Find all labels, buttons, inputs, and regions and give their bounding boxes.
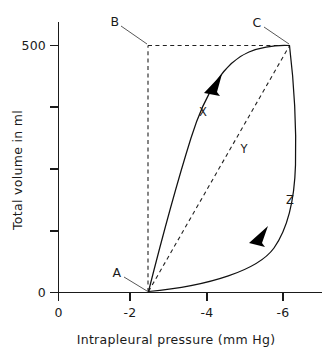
y-axis-title: Total volume in ml (10, 110, 25, 231)
point-labels-group: A B C (111, 14, 262, 280)
pressure-volume-loop-plot: 500 0 0 -2 -4 -6 Intrapleural pressure (… (0, 0, 329, 350)
axes-group (59, 22, 323, 293)
point-label-b: B (111, 14, 120, 29)
x-tick-marks (59, 293, 284, 301)
segment-label-z: Z (286, 193, 294, 207)
y-tick-label-0: 0 (38, 285, 46, 300)
y-tick-marks (50, 46, 58, 293)
point-label-a: A (113, 265, 122, 280)
segment-label-y: Y (239, 142, 248, 156)
leader-line-a (124, 277, 147, 291)
segment-labels-group: X Y Z (199, 105, 294, 207)
expiration-curve-z (149, 46, 296, 292)
x-tick-label-minus2: -2 (124, 305, 137, 320)
x-tick-labels: 0 -2 -4 -6 (54, 305, 289, 320)
leader-lines-group (121, 26, 289, 291)
leader-line-b (121, 26, 147, 44)
y-tick-labels: 500 0 (22, 38, 46, 300)
x-tick-label-0: 0 (54, 305, 62, 320)
leader-line-c (264, 27, 289, 44)
x-tick-label-minus6: -6 (277, 305, 290, 320)
expiration-direction-arrow-icon (249, 226, 268, 247)
y-tick-label-500: 500 (22, 38, 46, 53)
segment-label-x: X (199, 105, 207, 119)
x-tick-label-minus4: -4 (201, 305, 214, 320)
hysteresis-chart-figure: 500 0 0 -2 -4 -6 Intrapleural pressure (… (0, 0, 329, 350)
inspiration-direction-arrow-icon (204, 74, 222, 96)
point-label-c: C (253, 15, 262, 30)
x-axis-title: Intrapleural pressure (mm Hg) (77, 332, 276, 347)
